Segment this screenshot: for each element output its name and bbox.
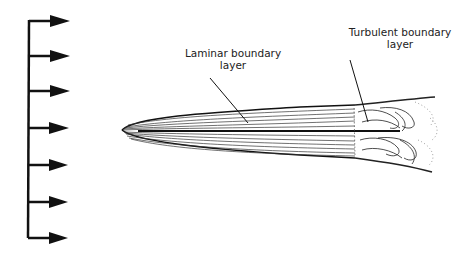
- turbulent-label: Turbulent boundary layer: [340, 26, 460, 50]
- laminar-label-line1: Laminar boundary: [178, 47, 288, 59]
- free-stream-velocity-profile: [28, 15, 70, 244]
- laminar-label-line2: layer: [178, 59, 288, 71]
- laminar-label: Laminar boundary layer: [178, 47, 288, 71]
- turbulent-label-line1: Turbulent boundary: [340, 26, 460, 38]
- velocity-arrows: [28, 15, 70, 244]
- turbulent-label-line2: layer: [340, 38, 460, 50]
- turbulent-boundary-layer: [350, 60, 437, 172]
